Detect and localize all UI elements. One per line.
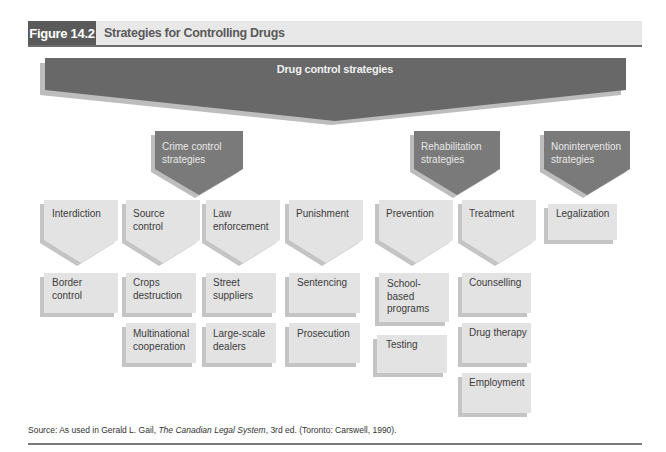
category-crime-control: Crime control strategies [162,141,221,166]
leaf-label-line: Employment [469,377,525,390]
source-book-title: The Canadian Legal System [158,425,265,435]
strategy-label-line: control [133,221,165,234]
leaf-label-line: Sentencing [297,277,347,290]
leaf-school-based-programs: School- based programs [387,278,429,316]
leaf-sentencing: Sentencing [297,277,347,290]
leaf-employment: Employment [469,377,525,390]
leaf-label-line: Border [52,277,82,290]
strategy-source-control: Source control [133,208,165,233]
strategy-label-line: Law [213,208,269,221]
strategy-label-line: Legalization [556,208,609,221]
strategy-law-enforcement: Law enforcement [213,208,269,233]
leaf-large-scale-dealers: Large-scale dealers [213,328,265,353]
category-label-line: Rehabilitation [421,141,482,154]
category-label-line: Nonintervention [551,141,621,154]
leaf-label-line: School- [387,278,429,291]
leaf-multinational-cooperation: Multinational cooperation [133,328,189,353]
strategy-interdiction: Interdiction [52,208,101,221]
category-label-line: strategies [421,154,482,167]
leaf-label-line: Testing [386,339,418,352]
leaf-label-line: dealers [213,341,265,354]
strategy-treatment: Treatment [469,208,514,221]
leaf-label-line: programs [387,303,429,316]
leaf-label-line: control [52,290,82,303]
leaf-label-line: suppliers [213,290,253,303]
leaf-label-line: Drug therapy [469,327,527,340]
root-node-label: Drug control strategies [45,63,625,75]
source-prefix: Source: As used in Gerald L. Gail, [28,425,158,435]
leaf-label-line: Prosecution [297,328,350,341]
leaf-crops-destruction: Crops destruction [133,277,182,302]
strategy-label-line: Interdiction [52,208,101,221]
category-nonintervention: Nonintervention strategies [551,141,621,166]
category-rehabilitation: Rehabilitation strategies [421,141,482,166]
footer-rule [28,443,642,445]
strategy-label-line: Source [133,208,165,221]
category-label-line: strategies [551,154,621,167]
leaf-shapes [40,273,531,417]
strategy-label-line: enforcement [213,221,269,234]
strategy-punishment: Punishment [296,208,349,221]
strategy-prevention: Prevention [386,208,434,221]
leaf-street-suppliers: Street suppliers [213,277,253,302]
strategy-label-line: Punishment [296,208,349,221]
leaf-label-line: cooperation [133,341,189,354]
leaf-label-line: Large-scale [213,328,265,341]
leaf-label-line: Counselling [469,277,521,290]
leaf-label-line: based [387,291,429,304]
strategy-label-line: Prevention [386,208,434,221]
source-suffix: , 3rd ed. (Toronto: Carswell, 1990). [266,425,397,435]
category-label-line: Crime control [162,141,221,154]
leaf-testing: Testing [386,339,418,352]
category-label-line: strategies [162,154,221,167]
leaf-label-line: Crops [133,277,182,290]
leaf-label-line: Street [213,277,253,290]
leaf-border-control: Border control [52,277,82,302]
source-citation: Source: As used in Gerald L. Gail, The C… [28,425,397,435]
strategy-legalization: Legalization [556,208,609,221]
leaf-drug-therapy: Drug therapy [469,327,527,340]
leaf-counselling: Counselling [469,277,521,290]
strategy-label-line: Treatment [469,208,514,221]
leaf-label-line: destruction [133,290,182,303]
leaf-label-line: Multinational [133,328,189,341]
leaf-prosecution: Prosecution [297,328,350,341]
